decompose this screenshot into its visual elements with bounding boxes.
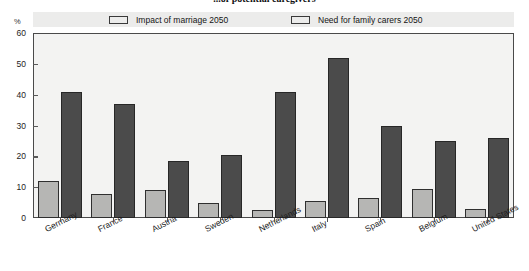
bar-group — [38, 33, 82, 218]
x-axis-category-label: Spain — [363, 215, 387, 234]
y-axis-tick-label: 20 — [17, 151, 26, 161]
y-axis-tick — [33, 187, 38, 188]
bar — [465, 209, 486, 218]
y-axis-tick — [33, 64, 38, 65]
bar-group — [145, 33, 189, 218]
chart-title: ...of potential caregivers — [0, 0, 529, 4]
bar — [305, 201, 326, 218]
bar — [328, 58, 349, 218]
x-axis-tick — [113, 218, 114, 222]
x-axis-tick — [487, 218, 488, 222]
legend-item-impact-of-marriage: Impact of marriage 2050 — [109, 15, 228, 25]
y-axis-tick — [33, 156, 38, 157]
bar-group — [358, 33, 402, 218]
bar — [145, 190, 166, 218]
bar — [435, 141, 456, 218]
legend-item-label: Impact of marriage 2050 — [136, 15, 228, 25]
bar — [114, 104, 135, 218]
x-axis-category-label: Italy — [310, 218, 328, 234]
x-axis-tick — [380, 218, 381, 222]
bar-group — [198, 33, 242, 218]
bar — [91, 194, 112, 218]
bar — [61, 92, 82, 218]
y-axis-tick-label: 60 — [17, 28, 26, 38]
y-axis-tick-label: 40 — [17, 90, 26, 100]
y-axis-unit-label: % — [14, 17, 21, 26]
bar-group — [465, 33, 509, 218]
bar — [412, 189, 433, 218]
x-axis-tick — [327, 218, 328, 222]
bar — [221, 155, 242, 218]
y-axis-tick-label: 50 — [17, 59, 26, 69]
y-axis-tick — [33, 95, 38, 96]
y-axis-tick — [33, 126, 38, 127]
legend-item-need-for-family-carers: Need for family carers 2050 — [291, 15, 422, 25]
x-axis-tick — [167, 218, 168, 222]
bar-group — [305, 33, 349, 218]
x-axis-tick — [434, 218, 435, 222]
x-axis: GermanyFranceAustriaSwedenNetherlandsIta… — [0, 218, 529, 271]
x-axis-tick — [60, 218, 61, 222]
chart-legend: Impact of marriage 2050 Need for family … — [33, 12, 514, 27]
bar — [252, 210, 273, 218]
bar-group — [91, 33, 135, 218]
bars-layer — [33, 33, 514, 218]
bar — [381, 126, 402, 219]
x-axis-tick — [220, 218, 221, 222]
legend-item-label: Need for family carers 2050 — [318, 15, 422, 25]
y-axis: 0102030405060 — [0, 33, 30, 218]
bar — [38, 181, 59, 218]
legend-swatch-icon — [291, 16, 310, 24]
bar — [168, 161, 189, 218]
bar-group — [412, 33, 456, 218]
bar — [358, 198, 379, 218]
x-axis-tick — [274, 218, 275, 222]
bar — [275, 92, 296, 218]
legend-swatch-icon — [109, 16, 128, 24]
bar — [198, 203, 219, 218]
bar-group — [252, 33, 296, 218]
y-axis-tick-label: 30 — [17, 121, 26, 131]
y-axis-tick-label: 10 — [17, 182, 26, 192]
